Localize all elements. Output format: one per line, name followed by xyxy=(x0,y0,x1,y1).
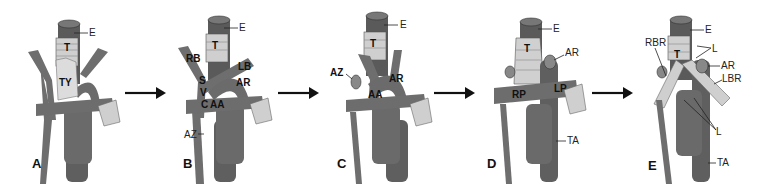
label-lp: LP xyxy=(554,83,567,94)
label-lb: LB xyxy=(238,61,251,72)
label-ar: AR xyxy=(721,60,735,71)
label-svc-c: C xyxy=(201,99,208,110)
panel-letter-a: A xyxy=(32,156,42,171)
label-ar: AR xyxy=(389,73,404,84)
azygos-vein xyxy=(656,100,672,184)
arrow-d-to-e xyxy=(592,87,633,99)
heart-mass xyxy=(676,90,702,156)
label-e: E xyxy=(239,22,246,33)
azygos-arch xyxy=(351,75,361,89)
arrow-b-to-c xyxy=(278,87,319,99)
label-e: E xyxy=(89,27,96,38)
label-ta: TA xyxy=(567,135,579,146)
label-ty: TY xyxy=(59,77,72,88)
label-rb: RB xyxy=(186,53,200,64)
label-ar: AR xyxy=(565,47,579,58)
label-t: T xyxy=(64,42,70,53)
panel-d: RP LP T E AR TA D xyxy=(487,18,586,184)
label-svc-v: V xyxy=(200,87,207,98)
heart-mass xyxy=(216,104,244,164)
label-e: E xyxy=(553,23,560,34)
panel-b: RB S V C LB AR AA T E AZ B xyxy=(178,16,272,184)
label-aa: AA xyxy=(368,89,382,100)
label-t: T xyxy=(212,40,218,51)
label-rbr: RBR xyxy=(645,37,666,48)
heart-mass xyxy=(372,104,400,164)
heart-mass xyxy=(526,104,552,164)
azygos-arch xyxy=(505,66,515,78)
label-rp: RP xyxy=(512,89,526,100)
label-l-bottom: L xyxy=(716,126,722,137)
panel-e: T E RBR L AR LBR L TA E xyxy=(645,16,741,184)
azygos-vein xyxy=(500,104,512,184)
arrow-c-to-d xyxy=(434,87,475,99)
azygos-vein xyxy=(192,110,204,184)
label-lbr: LBR xyxy=(722,73,741,84)
arrow-a-to-b xyxy=(125,87,166,99)
label-l-top: L xyxy=(712,43,718,54)
aortic-ring xyxy=(544,55,556,69)
azygos-arch xyxy=(657,66,667,78)
panel-a: TY T E A xyxy=(28,20,120,184)
panel-letter-c: C xyxy=(337,156,347,171)
label-t: T xyxy=(524,43,530,54)
panel-letter-b: B xyxy=(183,156,192,171)
label-aa: AA xyxy=(210,99,224,110)
label-e: E xyxy=(400,19,407,30)
label-ar: AR xyxy=(236,77,251,88)
label-svc-s: S xyxy=(199,75,206,86)
label-t: T xyxy=(674,49,680,60)
diagram-figure: TY T E A RB S V C LB AR AA T E AZ xyxy=(0,0,760,192)
panel-letter-e: E xyxy=(648,158,657,173)
label-az: AZ xyxy=(330,67,343,78)
azygos-vein xyxy=(350,112,362,184)
panel-c: AZ AA AR T E C xyxy=(330,12,432,184)
label-az: AZ xyxy=(184,129,197,140)
panel-letter-d: D xyxy=(487,156,496,171)
aortic-ring xyxy=(696,59,708,73)
label-t: T xyxy=(370,38,376,49)
label-ta: TA xyxy=(717,157,729,168)
label-e: E xyxy=(705,24,712,35)
